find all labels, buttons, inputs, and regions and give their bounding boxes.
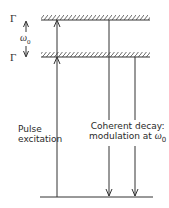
lower-linewidth-label: Γ — [10, 51, 16, 63]
pulse-excitation-label: Pulse excitation — [18, 124, 62, 144]
upper-level — [41, 15, 150, 20]
decay-omega-symbol: ω — [155, 130, 162, 141]
decay-omega-subscript: 0 — [162, 136, 166, 144]
pulse-excitation-arrow — [54, 20, 60, 197]
decay-upper-arrow — [106, 20, 112, 196]
decay-label-line2: modulation at ω0 — [89, 131, 166, 145]
pulse-label-line2: excitation — [18, 134, 62, 144]
splitting-label: ω0 — [20, 32, 31, 46]
omega-subscript: 0 — [27, 38, 31, 46]
coherent-decay-label: Coherent decay: modulation at ω0 — [89, 120, 166, 146]
omega-symbol: ω — [20, 32, 27, 43]
upper-linewidth-label: Γ — [10, 12, 16, 24]
decay-label-prefix: modulation at — [89, 131, 155, 141]
pulse-label-line1: Pulse — [18, 124, 62, 134]
